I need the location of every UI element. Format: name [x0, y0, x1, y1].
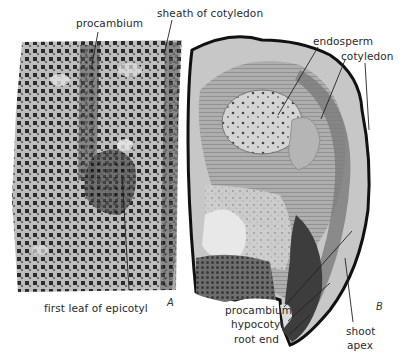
label-procambium-a: procambium	[76, 17, 143, 29]
label-hypocotyl: hypocotyl	[231, 318, 283, 330]
label-root-end: root end	[234, 333, 279, 345]
label-shoot: shoot	[346, 325, 376, 337]
label-apex: apex	[347, 339, 373, 351]
label-first-leaf-of-epicotyl: first leaf of epicotyl	[44, 302, 148, 314]
panel-b-micrograph	[188, 37, 369, 345]
label-sheath-of-cotyledon: sheath of cotyledon	[157, 7, 263, 19]
panel-letter-b: B	[376, 301, 383, 312]
panel-a-micrograph	[12, 40, 182, 292]
panel-letter-a: A	[167, 297, 174, 308]
label-endosperm: endosperm	[313, 35, 373, 47]
label-cotyledon: cotyledon	[341, 50, 394, 62]
label-procambium-b: procambium	[225, 304, 292, 316]
